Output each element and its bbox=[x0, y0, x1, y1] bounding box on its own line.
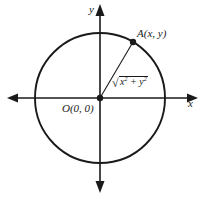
radius-length-label: √ x2 + y2 bbox=[112, 76, 148, 87]
radicand-y-exponent: 2 bbox=[144, 75, 147, 82]
point-a-dot bbox=[130, 39, 136, 45]
radical-sign-icon: √ bbox=[112, 77, 119, 89]
radicand: x2 + y2 bbox=[119, 76, 148, 87]
y-axis-down-arrow-icon bbox=[96, 181, 105, 193]
origin-point-dot bbox=[97, 95, 103, 101]
diagram-canvas bbox=[0, 0, 205, 200]
radical-expression: √ x2 + y2 bbox=[112, 76, 148, 87]
x-axis-left-arrow-icon bbox=[7, 94, 18, 103]
coordinate-circle-diagram: y x A(x, y) O(0, 0) √ x2 + y2 bbox=[0, 0, 205, 200]
y-axis-label: y bbox=[89, 4, 94, 15]
origin-label: O(0, 0) bbox=[62, 103, 94, 114]
x-axis-label: x bbox=[188, 98, 193, 109]
y-axis-up-arrow-icon bbox=[96, 4, 105, 16]
point-a-label: A(x, y) bbox=[137, 28, 166, 39]
radicand-plus: + bbox=[128, 76, 140, 87]
